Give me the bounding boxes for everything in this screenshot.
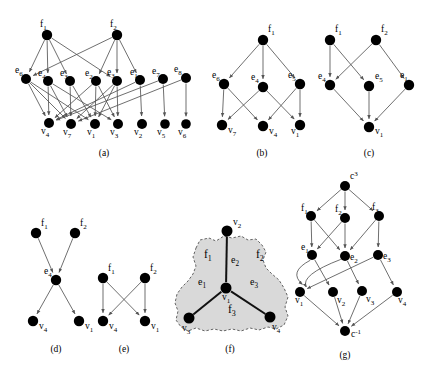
node-d-f2 xyxy=(70,228,80,238)
node-label-c-e4: e4 xyxy=(318,71,326,84)
edge-g-f3-to-e2 xyxy=(350,220,375,250)
panel-caption-e: (e) xyxy=(119,344,130,355)
node-e-f2 xyxy=(140,273,150,283)
node-b-f1 xyxy=(258,35,268,45)
edge-a-f1-to-e6 xyxy=(29,40,44,72)
node-b-v1 xyxy=(295,120,305,130)
node-g-cbot xyxy=(340,326,350,336)
node-d-e4 xyxy=(51,275,61,285)
node-e-f1 xyxy=(98,273,108,283)
node-label-g-v2: v2 xyxy=(337,295,346,308)
node-label-b-f1: f1 xyxy=(268,24,275,37)
node-d-v1 xyxy=(74,316,84,326)
node-f-v2 xyxy=(222,226,233,237)
node-label-c-e1: e1 xyxy=(400,70,408,83)
node-d-f1 xyxy=(31,228,41,238)
edge-a-e1-to-v2 xyxy=(140,85,141,116)
node-label-a-e3: e3 xyxy=(60,68,68,81)
node-label-a-v5: v5 xyxy=(157,127,166,140)
edge-g-e3-to-v4 xyxy=(381,260,394,285)
node-b-v4 xyxy=(258,121,268,131)
edge-c-e1-to-v1 xyxy=(375,89,405,121)
node-d-v4 xyxy=(28,316,38,326)
edge-a-e3-to-v7 xyxy=(70,86,71,116)
node-label-c-v1: v1 xyxy=(375,126,384,139)
edge-g-f1-to-e2 xyxy=(315,220,340,250)
node-label-g-e1: e1 xyxy=(301,242,309,255)
edge-a-e6-to-v4 xyxy=(29,84,46,116)
edge-d-e4-to-v1 xyxy=(59,285,75,314)
edge-d-f2-to-e4 xyxy=(59,238,73,272)
node-label-b-e6: e6 xyxy=(212,70,220,83)
node-label-a-e1: e1 xyxy=(130,67,138,80)
node-f-v4 xyxy=(265,312,276,323)
node-label-e-f1: f1 xyxy=(108,263,115,276)
edge-c-f2-to-e4 xyxy=(336,44,372,79)
node-b-e4 xyxy=(258,82,268,92)
node-label-a-e6: e6 xyxy=(15,65,23,78)
edge-g-v3-to-cbot xyxy=(348,296,360,324)
node-label-e-v1: v1 xyxy=(151,321,160,334)
edge-a-e7-to-v5 xyxy=(163,84,164,116)
figure-container: f1f2e6e4e3e2e3e1e7e8v4v7v1v3v2v5v6f1e6e4… xyxy=(0,0,427,374)
panel-caption-a: (a) xyxy=(99,148,110,159)
edge-c-e4-to-v1 xyxy=(334,89,364,121)
node-label-a-e8: e8 xyxy=(174,64,182,77)
edge-g-e1-to-v1 xyxy=(297,260,311,284)
node-label-g-v3: v3 xyxy=(366,294,375,307)
node-label-g-cbot: c-1 xyxy=(351,328,362,339)
edge-g-e2-to-v1 xyxy=(305,259,340,287)
node-label-f-v2: v2 xyxy=(233,217,242,230)
edge-d-e4-to-v4 xyxy=(37,285,53,314)
node-b-e6 xyxy=(219,79,229,89)
node-label-c-e5: e5 xyxy=(375,71,383,84)
node-e-v1 xyxy=(140,316,150,326)
panel-caption-f: (f) xyxy=(225,344,235,355)
panel-caption-c: (c) xyxy=(364,148,375,159)
node-label-d-f1: f1 xyxy=(41,218,48,231)
edge-b-e4-to-v7 xyxy=(228,91,259,120)
node-label-d-v1: v1 xyxy=(85,321,94,334)
node-label-d-f2: f2 xyxy=(80,218,87,231)
panel-caption-d: (d) xyxy=(50,344,61,355)
node-label-b-v7: v7 xyxy=(228,125,237,138)
node-label-a-e7: e7 xyxy=(152,66,160,79)
edge-b-e6-to-v7 xyxy=(222,90,223,117)
node-c-e5 xyxy=(364,81,374,91)
edge-g-f2-to-e1 xyxy=(317,222,341,249)
edge-a-e8-to-v7 xyxy=(78,80,180,121)
node-label-g-f2: f2 xyxy=(335,204,342,217)
node-c-f2 xyxy=(371,35,381,45)
node-g-e2 xyxy=(340,251,350,261)
node-label-e-f2: f2 xyxy=(150,263,157,276)
edge-e-f1-to-v1 xyxy=(107,282,139,315)
node-c-v1 xyxy=(364,122,374,132)
node-label-g-ctop: c3 xyxy=(350,170,358,181)
node-c-f1 xyxy=(325,35,335,45)
node-g-ctop xyxy=(340,181,350,191)
node-label-g-e2: e2 xyxy=(350,252,358,265)
figure-svg: f1f2e6e4e3e2e3e1e7e8v4v7v1v3v2v5v6f1e6e4… xyxy=(0,0,427,374)
edge-c-f1-to-e5 xyxy=(334,44,364,79)
panel-caption-b: (b) xyxy=(256,148,267,159)
edge-g-f1-to-e1 xyxy=(311,221,312,247)
node-c-e4 xyxy=(325,80,335,90)
node-label-g-v1: v1 xyxy=(295,295,304,308)
edge-f-v1-to-v2 xyxy=(226,236,227,282)
edge-g-e3-to-v1 xyxy=(307,257,373,288)
node-b-v7 xyxy=(217,120,227,130)
node-label-e-v4: v4 xyxy=(109,321,118,334)
edge-g-f3-to-e3 xyxy=(378,221,379,247)
node-label-a-f2: f2 xyxy=(110,19,117,32)
node-label-b-e5: e5 xyxy=(288,70,296,83)
node-f-v3 xyxy=(184,313,195,324)
edge-a-e4-to-v4 xyxy=(48,86,49,115)
node-label-a-v6: v6 xyxy=(178,127,187,140)
node-label-g-e3: e3 xyxy=(383,251,391,264)
node-label-g-v4: v4 xyxy=(398,295,407,308)
node-label-g-f1: f1 xyxy=(301,203,308,216)
node-label-b-e4: e4 xyxy=(251,72,259,85)
node-g-e3 xyxy=(373,250,383,260)
node-a-e8 xyxy=(181,73,191,83)
node-label-a-f1: f1 xyxy=(40,19,47,32)
